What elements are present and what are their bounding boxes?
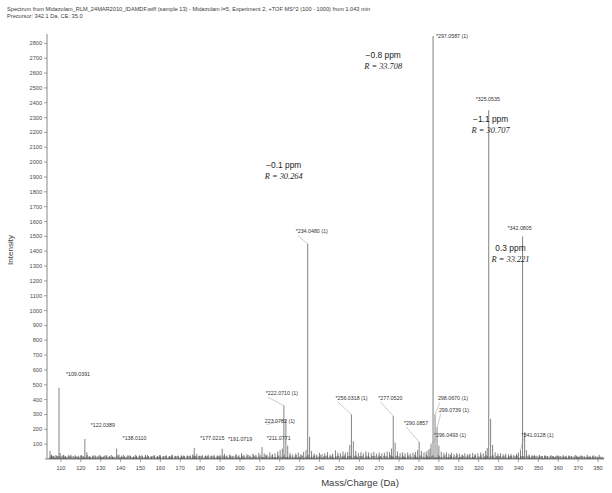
y-tick-label: 1600 xyxy=(30,219,42,225)
x-tick-label: 260 xyxy=(355,465,364,471)
y-axis: 1002003004005006007008009001000110012001… xyxy=(30,34,47,459)
x-tick-label: 320 xyxy=(474,465,483,471)
x-tick-label: 150 xyxy=(136,465,145,471)
x-tick-label: 240 xyxy=(315,465,324,471)
peak-label: 299.0739 (1) xyxy=(439,407,469,413)
x-tick-label: 160 xyxy=(156,465,165,471)
x-tick-label: 330 xyxy=(494,465,503,471)
x-tick-label: 350 xyxy=(534,465,543,471)
x-tick-label: 380 xyxy=(593,465,602,471)
peak-label: *277.0520 xyxy=(378,395,402,401)
x-tick-label: 180 xyxy=(196,465,205,471)
peak-label: *191.0719 xyxy=(228,436,252,442)
y-axis-title: Intensity xyxy=(6,235,15,265)
peak-label: *341.0128 (1) xyxy=(521,432,553,438)
x-tick-label: 110 xyxy=(56,465,65,471)
ppm-error-label: 0.3 ppm xyxy=(495,243,525,253)
y-tick-label: 2200 xyxy=(30,129,42,135)
y-tick-label: 500 xyxy=(33,382,42,388)
peak-label: *234.0480 (1) xyxy=(296,228,328,234)
peak-label: *109.0391 xyxy=(66,371,90,377)
y-tick-label: 2700 xyxy=(30,55,42,61)
x-tick-label: 120 xyxy=(76,465,85,471)
y-tick-label: 2500 xyxy=(30,85,42,91)
x-tick-label: 140 xyxy=(116,465,125,471)
ppm-error-label: −0.1 ppm xyxy=(266,160,301,170)
x-tick-label: 310 xyxy=(454,465,463,471)
peak-label: 223.0782 (1) xyxy=(265,418,295,424)
resolution-label: R = 33.708 xyxy=(363,62,403,71)
y-tick-label: 1900 xyxy=(30,174,42,180)
y-tick-label: 1500 xyxy=(30,233,42,239)
x-tick-label: 130 xyxy=(96,465,105,471)
peak-label: 298.0670 (1) xyxy=(438,395,468,401)
x-tick-label: 370 xyxy=(573,465,582,471)
peak-label: *325.0535 xyxy=(476,96,500,102)
peak-leader-lines xyxy=(267,235,524,450)
peak-label: *296.0493 (1) xyxy=(434,432,466,438)
x-tick-label: 170 xyxy=(176,465,185,471)
x-tick-label: 230 xyxy=(295,465,304,471)
y-tick-label: 600 xyxy=(33,367,42,373)
y-tick-label: 2600 xyxy=(30,70,42,76)
y-tick-label: 1000 xyxy=(30,308,42,314)
x-tick-label: 250 xyxy=(335,465,344,471)
y-tick-label: 1300 xyxy=(30,263,42,269)
resolution-label: R = 30.264 xyxy=(264,172,303,181)
peak-label: *122.0389 xyxy=(91,422,115,428)
x-tick-label: 270 xyxy=(375,465,384,471)
peak-label: *177.0215 xyxy=(200,435,224,441)
y-tick-label: 2300 xyxy=(30,115,42,121)
x-tick-label: 200 xyxy=(235,465,244,471)
y-tick-label: 900 xyxy=(33,322,42,328)
y-tick-label: 1100 xyxy=(30,293,42,299)
peak-label: *211.0771 xyxy=(267,435,291,441)
x-tick-label: 360 xyxy=(554,465,563,471)
y-tick-label: 300 xyxy=(33,411,42,417)
resolution-label: R = 30.707 xyxy=(471,126,511,135)
resolution-label: R = 33.221 xyxy=(491,255,530,264)
y-tick-label: 100 xyxy=(33,441,42,447)
y-tick-label: 700 xyxy=(33,352,42,358)
ppm-error-label: −0.8 ppm xyxy=(366,50,401,60)
mass-spectrum-svg: 1002003004005006007008009001000110012001… xyxy=(0,0,612,493)
x-tick-label: 290 xyxy=(414,465,423,471)
y-tick-label: 800 xyxy=(33,337,42,343)
peak-labels: *109.0391*122.0389*138.0110*177.0215*191… xyxy=(66,33,554,442)
spectrum-plot: 1002003004005006007008009001000110012001… xyxy=(0,0,612,493)
peak-label: *222.0710 (1) xyxy=(266,390,298,396)
x-tick-label: 220 xyxy=(275,465,284,471)
x-axis-title: Mass/Charge (Da) xyxy=(321,477,399,488)
peak-label: *290.0857 xyxy=(404,420,428,426)
x-tick-label: 210 xyxy=(255,465,264,471)
peak-label: *256.0318 (1) xyxy=(335,395,367,401)
y-tick-label: 200 xyxy=(33,426,42,432)
peak-label: *138.0110 xyxy=(123,435,147,441)
x-tick-label: 190 xyxy=(215,465,224,471)
x-tick-label: 300 xyxy=(434,465,443,471)
y-tick-label: 2400 xyxy=(30,100,42,106)
y-tick-label: 1700 xyxy=(30,204,42,210)
peak-label: *342.0805 xyxy=(508,225,532,231)
y-tick-label: 2800 xyxy=(30,40,42,46)
x-tick-label: 340 xyxy=(514,465,523,471)
peak-label: *297.0587 (1) xyxy=(436,33,468,39)
ppm-error-label: −1.1 ppm xyxy=(473,114,508,124)
y-tick-label: 1200 xyxy=(30,278,42,284)
x-axis: 1101201301401501601701801902002102202302… xyxy=(45,459,604,471)
y-tick-label: 2100 xyxy=(30,144,42,150)
y-tick-label: 400 xyxy=(33,397,42,403)
y-tick-label: 2000 xyxy=(30,159,42,165)
y-tick-label: 1800 xyxy=(30,189,42,195)
x-tick-label: 280 xyxy=(394,465,403,471)
y-tick-label: 1400 xyxy=(30,248,42,254)
